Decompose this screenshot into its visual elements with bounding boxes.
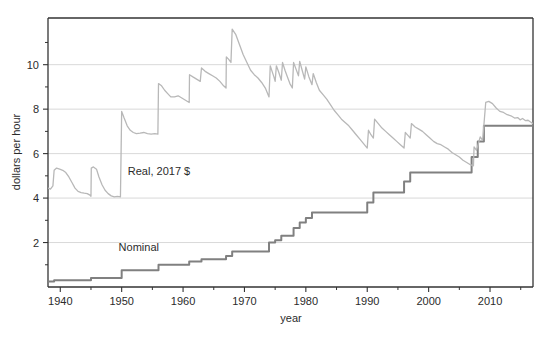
x-axis-title: year	[280, 312, 302, 324]
x-tick-label: 1970	[232, 295, 256, 307]
y-tick-label: 10	[27, 59, 39, 71]
series-label-nominal: Nominal	[119, 241, 159, 253]
y-tick-label: 2	[33, 237, 39, 249]
x-tick-labels: 19401950196019701980199020002010	[48, 295, 502, 307]
series-label-real-2017: Real, 2017 $	[128, 165, 190, 177]
x-tick-label: 2000	[416, 295, 440, 307]
x-tick-label: 1940	[48, 295, 72, 307]
series-annotations: NominalReal, 2017 $	[119, 165, 191, 253]
y-axis-title: dollars per hour	[10, 113, 22, 190]
minimum-wage-chart: 19401950196019701980199020002010 246810 …	[0, 0, 554, 338]
x-tick-label: 2010	[478, 295, 502, 307]
chart-canvas: 19401950196019701980199020002010 246810 …	[0, 0, 554, 338]
y-tick-label: 6	[33, 148, 39, 160]
x-tick-label: 1980	[294, 295, 318, 307]
x-tick-label: 1960	[171, 295, 195, 307]
x-tick-label: 1950	[109, 295, 133, 307]
x-tick-label: 1990	[355, 295, 379, 307]
y-axis-ticks	[43, 42, 48, 264]
y-tick-label: 8	[33, 103, 39, 115]
y-tick-label: 4	[33, 192, 39, 204]
x-axis-ticks	[60, 287, 520, 292]
y-tick-labels: 246810	[27, 59, 39, 249]
